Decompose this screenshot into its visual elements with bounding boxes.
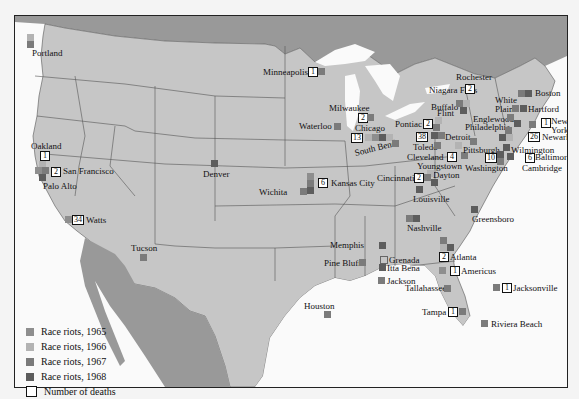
riot-marker-1967 xyxy=(440,237,447,244)
riot-marker-1967 xyxy=(456,100,463,107)
death-count-americus: 1 xyxy=(450,266,460,276)
riot-marker-1968 xyxy=(379,264,386,271)
city-label-pontiac: Pontiac xyxy=(395,120,422,129)
riot-marker-1968 xyxy=(460,107,467,114)
riot-marker-1967 xyxy=(392,140,399,147)
riot-marker-1967 xyxy=(42,167,49,174)
city-label-minneapolis: Minneapolis xyxy=(263,68,308,77)
riot-marker-1965 xyxy=(35,167,42,174)
legend-swatch-1967 xyxy=(26,358,34,366)
riot-marker-1967 xyxy=(470,138,477,145)
riot-marker-1967 xyxy=(307,180,314,187)
death-count-washington: 10 xyxy=(485,153,497,163)
map-legend: Race riots, 1965 Race riots, 1966 Race r… xyxy=(26,324,116,399)
legend-label: Number of deaths xyxy=(44,386,116,397)
legend-label: Race riots, 1966 xyxy=(41,341,106,352)
city-label-tampa: Tampa xyxy=(422,308,446,317)
riot-marker-1967 xyxy=(424,174,431,181)
death-count-kansas-city: 6 xyxy=(318,178,328,188)
riot-marker-1968 xyxy=(525,90,532,97)
city-label-greensboro: Greensboro xyxy=(472,215,514,224)
riot-marker-1966 xyxy=(435,117,442,124)
riot-marker-1965 xyxy=(439,267,446,274)
city-label-hartford: Hartford xyxy=(528,105,559,114)
riot-marker-1967 xyxy=(507,114,514,121)
riot-marker-1966 xyxy=(506,134,513,141)
city-label-louisville: Louisville xyxy=(413,195,450,204)
city-label-boston: Boston xyxy=(535,89,561,98)
riot-marker-1967 xyxy=(378,277,385,284)
riot-marker-1967 xyxy=(434,142,441,149)
death-count-baltimore: 6 xyxy=(525,153,535,163)
riot-marker-1967 xyxy=(481,320,488,327)
city-label-denver: Denver xyxy=(203,170,230,179)
riot-marker-1968 xyxy=(507,153,514,160)
riot-marker-1967 xyxy=(324,311,331,318)
riot-marker-1967 xyxy=(359,259,366,266)
legend-label: Race riots, 1965 xyxy=(41,326,106,337)
riot-marker-1967 xyxy=(406,215,413,222)
riot-marker-1968 xyxy=(503,144,510,151)
city-label-oakland: Oakland xyxy=(31,142,62,151)
city-label-kansas-city: Kansas City xyxy=(331,179,375,188)
riot-marker-1967 xyxy=(334,123,341,130)
riot-marker-1967 xyxy=(493,284,500,291)
legend-item-1968: Race riots, 1968 xyxy=(26,369,116,384)
riot-marker-1965 xyxy=(65,216,72,223)
death-count-tampa: 1 xyxy=(448,307,458,317)
city-label-cincinnati: Cincinnati xyxy=(377,174,415,183)
city-label-watts: Watts xyxy=(86,216,106,225)
riot-marker-1967 xyxy=(318,68,325,75)
riot-marker-1968 xyxy=(447,244,454,251)
death-count-atlanta: 2 xyxy=(439,252,449,262)
riot-marker-1966 xyxy=(440,244,447,251)
legend-item-1965: Race riots, 1965 xyxy=(26,324,116,339)
riot-marker-1965 xyxy=(307,173,314,180)
city-label-buffalo: Buffalo xyxy=(431,103,458,112)
legend-item-deaths: Number of deaths xyxy=(26,384,116,399)
city-label-itta-bena: Itta Bena xyxy=(387,264,420,273)
riot-marker-1967 xyxy=(140,254,147,261)
riot-marker-1968 xyxy=(413,215,420,222)
legend-item-1966: Race riots, 1966 xyxy=(26,339,116,354)
death-count-watts: 34 xyxy=(72,215,84,225)
legend-swatch-1968 xyxy=(26,373,34,381)
city-label-waterloo: Waterloo xyxy=(299,122,332,131)
city-label-washington: Washington xyxy=(465,164,508,173)
death-count-new-york: 1 xyxy=(541,118,551,128)
riot-marker-1968 xyxy=(211,160,218,167)
city-label-atlanta: Atlanta xyxy=(450,253,477,262)
riot-marker-1968 xyxy=(379,242,386,249)
death-count-newark: 26 xyxy=(528,132,540,142)
city-label-chicago: Chicago xyxy=(355,124,385,133)
city-label-memphis: Memphis xyxy=(330,241,364,250)
riot-marker-1967 xyxy=(444,285,451,292)
riot-marker-1967 xyxy=(367,114,374,121)
legend-label: Race riots, 1967 xyxy=(41,356,106,367)
city-label-baltimore: Baltimore xyxy=(535,153,568,162)
legend-swatch-1965 xyxy=(26,328,34,336)
death-count-san-francisco: 2 xyxy=(51,167,61,177)
city-label-americus: Americus xyxy=(461,267,496,276)
city-label-milwaukee: Milwaukee xyxy=(329,104,370,113)
city-label-pine-bluff: Pine Bluff xyxy=(324,259,361,268)
death-count-oakland: 1 xyxy=(40,151,50,161)
city-label-riviera-beach: Riviera Beach xyxy=(491,320,542,329)
legend-label: Race riots, 1968 xyxy=(41,371,106,382)
city-label-jacksonville: Jacksonville xyxy=(513,284,558,293)
riot-marker-1967 xyxy=(529,121,536,128)
death-count-rochester: 2 xyxy=(465,84,475,94)
death-count-chicago: 13 xyxy=(351,133,363,143)
riot-marker-1968 xyxy=(39,174,46,181)
riot-marker-1968 xyxy=(499,134,506,141)
riot-marker-1968 xyxy=(307,187,314,194)
death-count-minneapolis: 1 xyxy=(308,67,318,77)
death-count-detroit: 38 xyxy=(416,132,428,142)
riot-marker-1968 xyxy=(431,179,438,186)
city-label-cambridge: Cambridge xyxy=(522,164,562,173)
riot-marker-1967 xyxy=(433,124,440,131)
riot-marker-1965 xyxy=(372,134,379,141)
riot-marker-1968 xyxy=(497,151,504,158)
riot-marker-1967 xyxy=(459,308,466,315)
riot-marker-1967 xyxy=(438,132,445,139)
